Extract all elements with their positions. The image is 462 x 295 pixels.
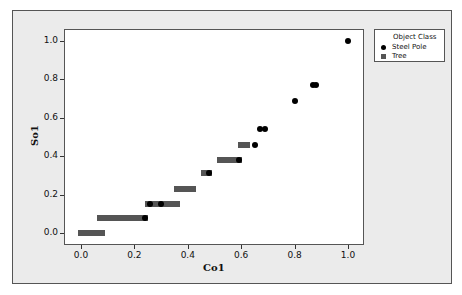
y-tick xyxy=(60,118,64,119)
data-point-tree xyxy=(97,215,148,221)
x-tick-label: 0.0 xyxy=(66,250,96,260)
x-tick-label: 0.6 xyxy=(226,250,256,260)
x-tick xyxy=(188,245,189,249)
x-tick-label: 0.4 xyxy=(173,250,203,260)
legend-label: Steel Pole xyxy=(392,43,426,51)
x-tick xyxy=(295,245,296,249)
data-point-tree xyxy=(238,142,249,148)
x-tick xyxy=(241,245,242,249)
y-tick xyxy=(60,195,64,196)
y-tick-label: 0.0 xyxy=(30,227,58,237)
x-tick-label: 1.0 xyxy=(333,250,363,260)
legend-item-tree: Tree xyxy=(381,51,407,61)
plot-area xyxy=(64,29,364,245)
legend-title: Object Class xyxy=(393,33,436,41)
data-point-tree xyxy=(78,230,105,236)
x-axis-title: Co1 xyxy=(203,262,225,273)
x-tick-label: 0.8 xyxy=(280,250,310,260)
y-tick-label: 0.4 xyxy=(30,150,58,160)
y-tick-label: 1.0 xyxy=(30,35,58,45)
y-tick-label: 0.2 xyxy=(30,189,58,199)
data-point-steel-pole xyxy=(252,142,258,148)
legend: Object Class Steel Pole Tree xyxy=(374,29,445,62)
y-tick xyxy=(60,79,64,80)
x-tick xyxy=(134,245,135,249)
x-tick xyxy=(81,245,82,249)
y-tick xyxy=(60,41,64,42)
data-point-steel-pole xyxy=(292,98,298,104)
data-point-steel-pole xyxy=(345,38,351,44)
y-tick xyxy=(60,233,64,234)
circle-icon xyxy=(381,45,386,50)
square-icon xyxy=(381,54,386,59)
y-tick-label: 0.8 xyxy=(30,73,58,83)
y-tick xyxy=(60,156,64,157)
data-point-steel-pole xyxy=(236,157,242,163)
x-tick-label: 0.2 xyxy=(119,250,149,260)
legend-label: Tree xyxy=(392,52,407,60)
y-axis-title: So1 xyxy=(29,125,40,146)
data-point-steel-pole xyxy=(142,215,148,221)
x-tick xyxy=(348,245,349,249)
y-tick-label: 0.6 xyxy=(30,112,58,122)
data-point-tree xyxy=(174,186,196,192)
